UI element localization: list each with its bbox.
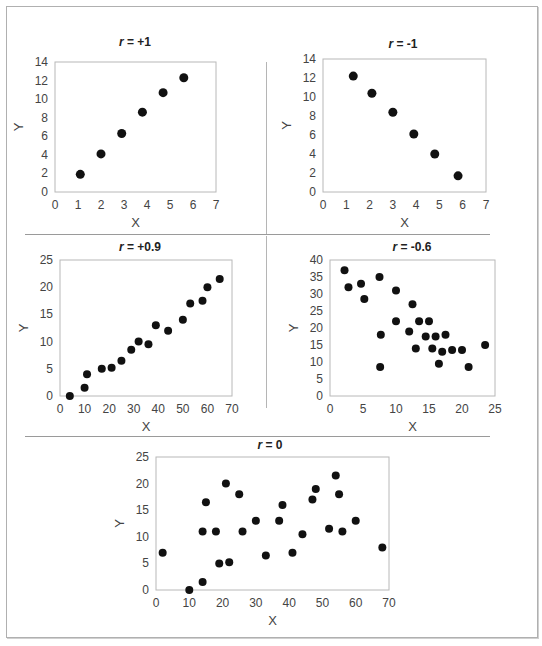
data-point [199,527,207,535]
data-point [239,527,247,535]
x-tick-label: 20 [216,596,230,610]
data-point [288,549,296,557]
data-point [378,543,386,551]
data-point [159,549,167,557]
data-point [185,586,193,594]
data-point [278,501,286,509]
x-axis-label: X [268,613,277,628]
data-point [212,527,220,535]
data-point [338,527,346,535]
x-tick-label: 30 [249,596,263,610]
y-tick-label: 10 [136,530,150,544]
data-point [352,517,360,525]
x-tick-label: 0 [153,596,160,610]
data-point [199,578,207,586]
data-point [222,480,230,488]
data-point [252,517,260,525]
y-tick-label: 5 [142,556,149,570]
x-tick-label: 50 [316,596,330,610]
y-tick-label: 25 [136,450,150,464]
data-point [298,530,306,538]
x-tick-label: 70 [382,596,396,610]
data-point [202,498,210,506]
y-tick-label: 20 [136,477,150,491]
data-point [335,490,343,498]
data-point [215,559,223,567]
y-tick-label: 0 [142,583,149,597]
data-point [312,485,320,493]
data-point [332,472,340,480]
x-tick-label: 60 [349,596,363,610]
x-tick-label: 10 [183,596,197,610]
data-point [325,525,333,533]
y-tick-label: 15 [136,503,150,517]
x-tick-label: 40 [282,596,296,610]
y-axis-label: Y [112,519,127,528]
data-point [262,551,270,559]
data-point [235,490,243,498]
data-point [275,517,283,525]
scatter-chart-r-0: 0102030405060700510152025XY [0,0,542,646]
data-point [308,496,316,504]
data-point [225,558,233,566]
